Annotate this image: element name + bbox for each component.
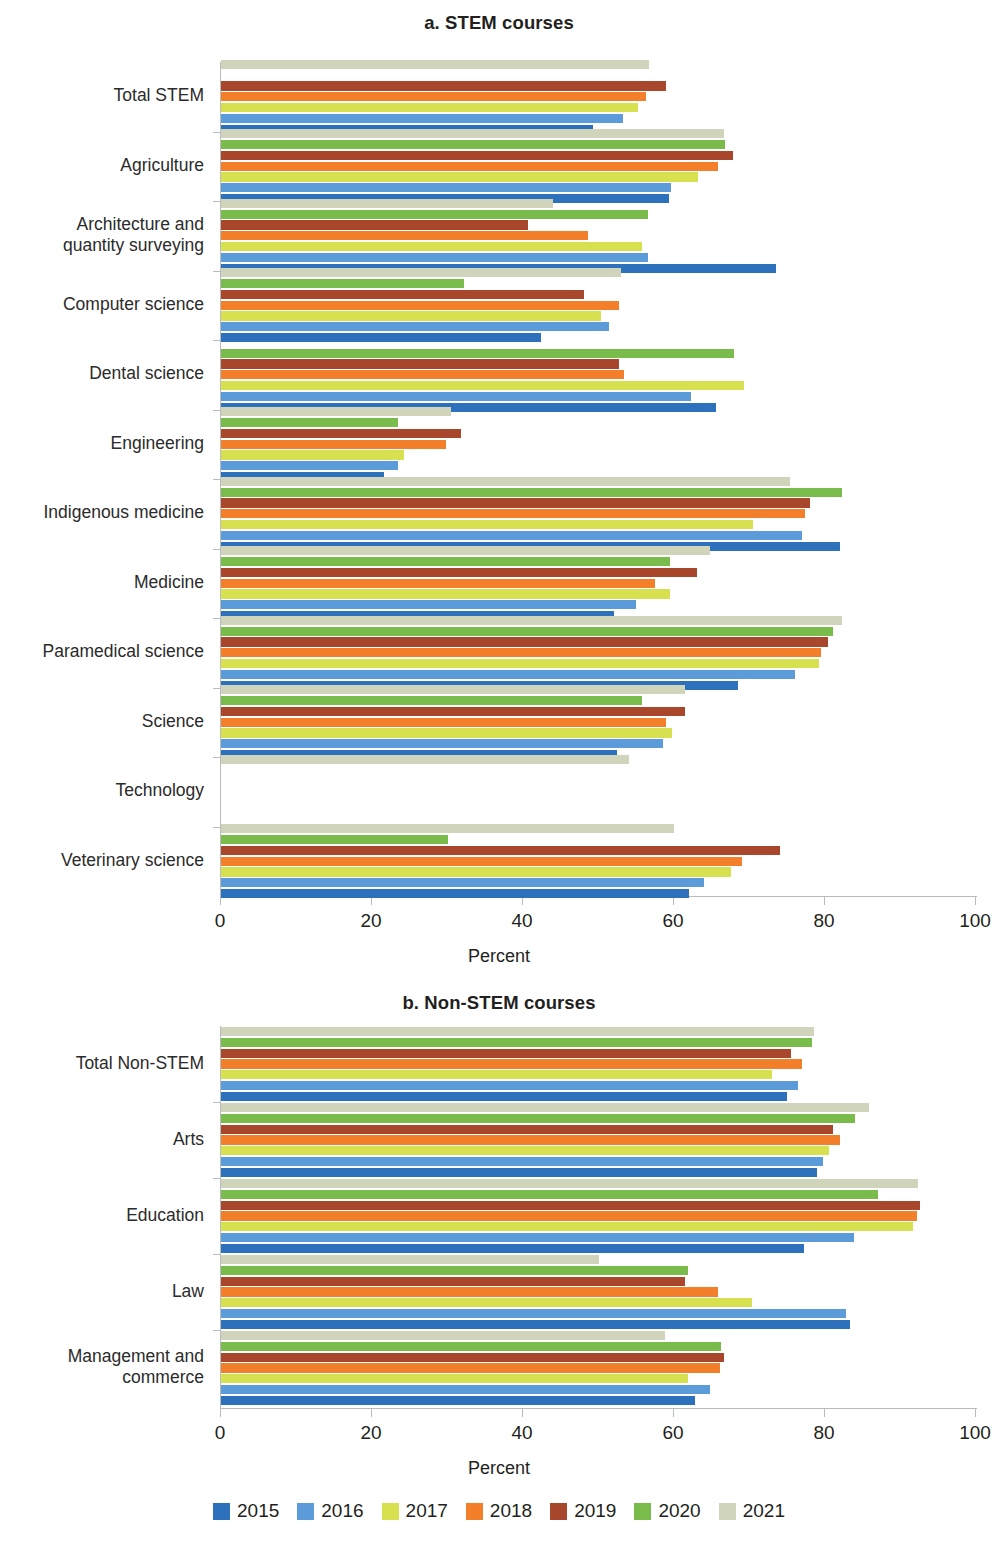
bar-2017 [221, 728, 672, 737]
legend-label: 2020 [658, 1500, 700, 1522]
y-tick [213, 1254, 220, 1255]
category-label: Indigenous medicine [0, 502, 204, 523]
bar-2016 [221, 670, 795, 679]
legend-item-2015[interactable]: 2015 [213, 1500, 279, 1522]
y-tick [213, 688, 220, 689]
y-tick [213, 757, 220, 758]
bar-2021 [221, 546, 710, 555]
bar-2017 [221, 659, 819, 668]
x-tick-60 [673, 1408, 674, 1417]
x-tick-label-100: 100 [947, 910, 998, 932]
category-label: Total Non-STEM [0, 1053, 204, 1074]
panel-a-title: a. STEM courses [0, 12, 998, 34]
bar-2020 [221, 1114, 855, 1123]
bar-2020 [221, 1266, 688, 1275]
x-axis-title: Percent [0, 946, 998, 967]
y-tick [213, 1102, 220, 1103]
legend-item-2021[interactable]: 2021 [719, 1500, 785, 1522]
legend-label: 2016 [321, 1500, 363, 1522]
bar-2016 [221, 1385, 710, 1394]
bar-2019 [221, 637, 828, 646]
bar-2019 [221, 568, 697, 577]
legend-item-2017[interactable]: 2017 [382, 1500, 448, 1522]
bar-2017 [221, 172, 698, 181]
bar-2018 [221, 231, 588, 240]
category-label: Management and commerce [0, 1346, 204, 1389]
bar-2020 [221, 140, 725, 149]
bar-2021 [221, 477, 790, 486]
bar-2019 [221, 1353, 724, 1362]
x-tick-label-20: 20 [343, 1422, 399, 1444]
legend-swatch-icon-2019 [550, 1503, 567, 1520]
y-tick [213, 271, 220, 272]
bar-2017 [221, 1298, 752, 1307]
bar-2019 [221, 81, 666, 90]
bar-2018 [221, 648, 821, 657]
y-tick [213, 479, 220, 480]
category-label: Agriculture [0, 155, 204, 176]
bar-2015 [221, 1244, 804, 1253]
bar-2016 [221, 392, 691, 401]
bar-2017 [221, 311, 601, 320]
bar-2018 [221, 1135, 840, 1144]
bar-2021 [221, 199, 553, 208]
bar-2021 [221, 616, 842, 625]
bar-2015 [221, 1168, 817, 1177]
bar-2015 [221, 333, 541, 342]
x-tick-100 [975, 896, 976, 905]
bar-2021 [221, 824, 674, 833]
legend-swatch-icon-2017 [382, 1503, 399, 1520]
legend-swatch-icon-2021 [719, 1503, 736, 1520]
legend-swatch-icon-2016 [297, 1503, 314, 1520]
y-tick [213, 549, 220, 550]
y-tick [213, 827, 220, 828]
category-label: Veterinary science [0, 850, 204, 871]
legend-swatch-icon-2020 [634, 1503, 651, 1520]
x-tick-label-80: 80 [796, 1422, 852, 1444]
bar-2021 [221, 755, 629, 764]
bar-2019 [221, 1277, 685, 1286]
bar-2018 [221, 440, 446, 449]
bar-2020 [221, 696, 642, 705]
legend-item-2016[interactable]: 2016 [297, 1500, 363, 1522]
bar-2018 [221, 370, 624, 379]
category-label: Technology [0, 780, 204, 801]
x-axis-title: Percent [0, 1458, 998, 1479]
x-tick-label-20: 20 [343, 910, 399, 932]
bar-2017 [221, 1222, 913, 1231]
bar-2020 [221, 349, 734, 358]
bar-2019 [221, 359, 619, 368]
bar-2017 [221, 1146, 829, 1155]
bar-2018 [221, 92, 646, 101]
bar-2016 [221, 1309, 846, 1318]
bar-2016 [221, 1157, 823, 1166]
bar-2020 [221, 557, 670, 566]
legend-item-2020[interactable]: 2020 [634, 1500, 700, 1522]
bar-2018 [221, 301, 619, 310]
legend-item-2019[interactable]: 2019 [550, 1500, 616, 1522]
bar-2017 [221, 867, 731, 876]
bar-2017 [221, 589, 670, 598]
bar-2021 [221, 1103, 869, 1112]
legend-item-2018[interactable]: 2018 [466, 1500, 532, 1522]
bar-2021 [221, 60, 649, 69]
bar-2020 [221, 835, 448, 844]
bar-2019 [221, 220, 528, 229]
bar-2016 [221, 253, 648, 262]
bar-2017 [221, 103, 638, 112]
bar-2015 [221, 1320, 850, 1329]
bar-2018 [221, 718, 666, 727]
bar-2020 [221, 418, 398, 427]
bar-2021 [221, 685, 685, 694]
bar-2021 [221, 129, 724, 138]
y-tick [213, 618, 220, 619]
bar-2016 [221, 114, 623, 123]
category-label: Architecture and quantity surveying [0, 214, 204, 257]
bar-2019 [221, 1049, 791, 1058]
bar-2021 [221, 268, 621, 277]
x-tick-label-40: 40 [494, 1422, 550, 1444]
category-label: Engineering [0, 433, 204, 454]
y-tick [213, 132, 220, 133]
legend-swatch-icon-2015 [213, 1503, 230, 1520]
bar-2020 [221, 1038, 812, 1047]
